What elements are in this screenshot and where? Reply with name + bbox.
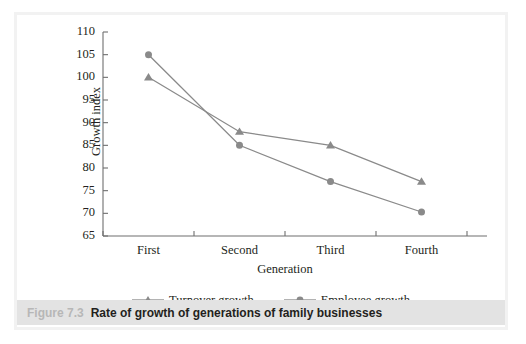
caption-title: Rate of growth of generations of family … xyxy=(91,306,382,320)
chart-panel: Growth index 65707580859095100105110 Fir… xyxy=(21,18,505,296)
y-tick-label: 70 xyxy=(69,205,95,220)
y-tick-label: 95 xyxy=(69,92,95,107)
y-tick-label: 90 xyxy=(69,115,95,130)
x-tick-label: Third xyxy=(296,243,366,258)
x-tick-label: First xyxy=(114,243,184,258)
y-tick-label: 80 xyxy=(69,160,95,175)
x-tick-label: Second xyxy=(205,243,275,258)
y-tick-label: 100 xyxy=(69,69,95,84)
figure-container: Growth index 65707580859095100105110 Fir… xyxy=(0,0,526,344)
y-tick-label: 75 xyxy=(69,183,95,198)
x-tick-label: Fourth xyxy=(387,243,457,258)
y-tick-label: 110 xyxy=(69,24,95,39)
x-axis-title: Generation xyxy=(225,262,345,277)
y-tick-label: 105 xyxy=(69,47,95,62)
y-tick-label: 65 xyxy=(69,228,95,243)
figure-caption: Figure 7.3 Rate of growth of generations… xyxy=(17,300,505,325)
y-tick-label: 85 xyxy=(69,137,95,152)
caption-figure-number: Figure 7.3 xyxy=(27,306,84,320)
chart-plot-area: Growth index 65707580859095100105110 Fir… xyxy=(21,18,505,296)
